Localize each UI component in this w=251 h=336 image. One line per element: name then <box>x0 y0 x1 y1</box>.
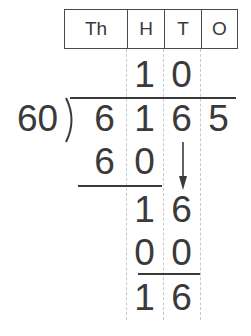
division-bracket-icon <box>64 97 78 143</box>
dividend-thousands: 6 <box>86 99 123 139</box>
column-guide <box>200 49 201 320</box>
header-hundreds: H <box>127 10 164 48</box>
header-ones: O <box>201 10 237 48</box>
subtract1-thousands: 6 <box>86 142 123 182</box>
quotient-hundreds: 1 <box>126 55 163 95</box>
place-value-header: Th H T O <box>64 9 238 49</box>
dividend-ones: 5 <box>200 99 237 139</box>
quotient-tens: 0 <box>163 55 200 95</box>
divisor: 60 <box>17 99 58 139</box>
header-thousands: Th <box>65 10 127 48</box>
subtract2-tens: 0 <box>163 233 200 273</box>
down-arrow-icon <box>178 142 188 192</box>
subtraction-line <box>138 273 200 275</box>
subtraction-line <box>78 185 162 187</box>
dividend-tens: 6 <box>163 99 200 139</box>
remainder2-tens: 6 <box>163 278 200 318</box>
subtract1-hundreds: 0 <box>126 142 163 182</box>
remainder1-hundreds: 1 <box>126 190 163 230</box>
dividend-hundreds: 1 <box>126 99 163 139</box>
subtract2-hundreds: 0 <box>126 233 163 273</box>
remainder2-hundreds: 1 <box>126 278 163 318</box>
remainder1-tens: 6 <box>163 190 200 230</box>
header-tens: T <box>164 10 201 48</box>
